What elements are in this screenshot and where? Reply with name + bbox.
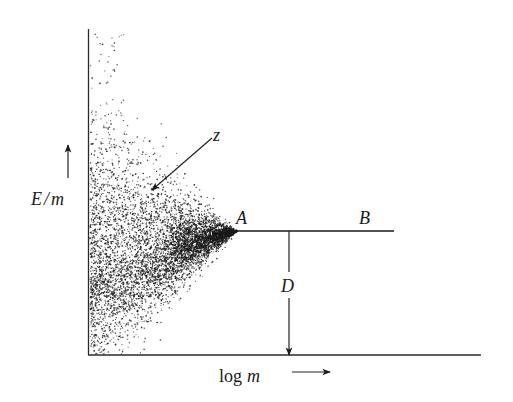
y-axis-label-m: m [51,189,64,209]
x-axis-label: logm [219,366,260,386]
y-axis-label-E: E [30,189,42,209]
label-A: A [235,208,248,228]
label-D: D [280,276,294,296]
diagram-canvas: E/m logm z A B D [0,0,513,402]
scatter-cloud [89,33,238,354]
x-axis-label-m: m [247,366,260,386]
label-B: B [359,208,370,228]
y-axis-label-slash: / [43,189,51,209]
y-axis-label: E/m [30,189,64,209]
x-axis-label-log: log [219,366,242,386]
label-z: z [212,125,220,145]
z-pointer-arrow [152,138,212,190]
